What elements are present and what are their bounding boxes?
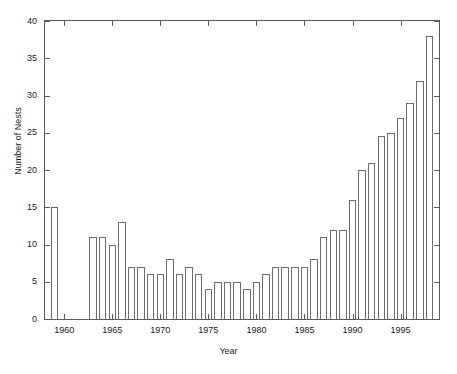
bar	[195, 274, 202, 319]
y-tick-mark	[45, 96, 50, 97]
bar	[128, 267, 135, 319]
y-tick-mark	[45, 245, 50, 246]
y-tick-mark	[434, 207, 439, 208]
x-tick-mark	[256, 314, 257, 319]
bar	[109, 245, 116, 320]
bar	[176, 274, 183, 319]
bar	[89, 237, 96, 319]
bar	[378, 136, 385, 319]
bar	[387, 133, 394, 319]
bar	[272, 267, 279, 319]
x-tick-mark	[353, 314, 354, 319]
x-tick-label: 1965	[92, 326, 132, 335]
y-tick-label: 10	[3, 240, 37, 249]
bar	[262, 274, 269, 319]
x-tick-label: 1995	[381, 326, 421, 335]
bar	[166, 259, 173, 319]
x-tick-label: 1970	[140, 326, 180, 335]
y-tick-mark	[45, 21, 50, 22]
y-tick-label: 40	[3, 17, 37, 26]
x-axis-title: Year	[0, 346, 457, 356]
bar	[99, 237, 106, 319]
bar	[291, 267, 298, 319]
nest-count-bar-chart: 0 5 10 15 20 25 30 35 40 1960 1965 1970 …	[0, 0, 457, 374]
bar	[137, 267, 144, 319]
bar	[147, 274, 154, 319]
y-tick-mark	[434, 58, 439, 59]
x-tick-mark	[256, 21, 257, 26]
x-tick-mark	[353, 21, 354, 26]
x-tick-label: 1990	[333, 326, 373, 335]
bar	[157, 274, 164, 319]
bar	[358, 170, 365, 319]
x-tick-mark	[64, 21, 65, 26]
y-tick-mark	[45, 282, 50, 283]
y-axis-title: Number of Nests	[13, 86, 23, 196]
x-tick-mark	[304, 21, 305, 26]
bar	[243, 289, 250, 319]
y-tick-mark	[434, 133, 439, 134]
bar	[118, 222, 125, 319]
y-tick-mark	[434, 170, 439, 171]
bar	[426, 36, 433, 319]
x-tick-label: 1980	[236, 326, 276, 335]
x-tick-mark	[112, 314, 113, 319]
bar	[330, 230, 337, 319]
bar	[310, 259, 317, 319]
y-tick-mark	[45, 133, 50, 134]
bar	[339, 230, 346, 319]
x-tick-mark	[160, 314, 161, 319]
y-tick-label: 15	[3, 203, 37, 212]
y-tick-mark	[45, 319, 50, 320]
x-tick-mark	[112, 21, 113, 26]
bar	[51, 207, 58, 319]
y-tick-mark	[45, 58, 50, 59]
y-tick-mark	[434, 245, 439, 246]
bar	[416, 81, 423, 319]
x-tick-mark	[64, 314, 65, 319]
x-tick-label: 1975	[188, 326, 228, 335]
x-tick-mark	[401, 21, 402, 26]
bar	[397, 118, 404, 319]
bar	[233, 282, 240, 319]
y-tick-mark	[434, 282, 439, 283]
bar	[224, 282, 231, 319]
x-tick-mark	[208, 21, 209, 26]
y-tick-mark	[434, 319, 439, 320]
plot-area	[45, 21, 439, 319]
bar	[320, 237, 327, 319]
y-tick-label: 5	[3, 277, 37, 286]
bar	[185, 267, 192, 319]
bar	[281, 267, 288, 319]
bar	[368, 163, 375, 319]
plot-frame	[44, 20, 440, 320]
y-tick-label: 0	[3, 315, 37, 324]
x-tick-mark	[208, 314, 209, 319]
bar	[349, 200, 356, 319]
y-tick-label: 35	[3, 54, 37, 63]
x-tick-label: 1985	[284, 326, 324, 335]
x-tick-mark	[304, 314, 305, 319]
bar	[301, 267, 308, 319]
y-tick-mark	[434, 21, 439, 22]
x-tick-label: 1960	[44, 326, 84, 335]
y-tick-mark	[45, 207, 50, 208]
y-tick-mark	[45, 170, 50, 171]
y-tick-mark	[434, 96, 439, 97]
x-tick-mark	[401, 314, 402, 319]
bar	[214, 282, 221, 319]
x-tick-mark	[160, 21, 161, 26]
bar	[406, 103, 413, 319]
